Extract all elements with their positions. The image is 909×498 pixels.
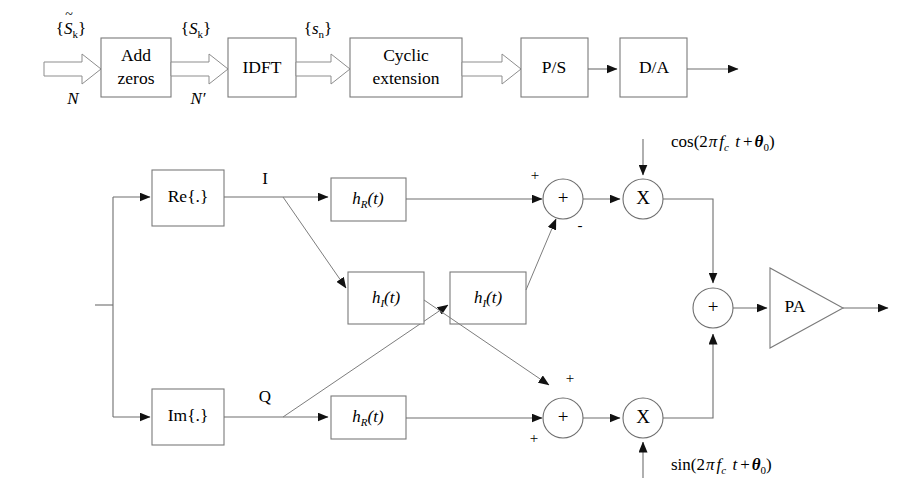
block-im[interactable]: Im{.} <box>152 389 224 445</box>
carrier-sin-label: sin(2πfc t+θ0) <box>671 455 772 476</box>
block-diagram: {Sk} ~ N Add zeros {Sk} N′ IDFT {sn} <box>0 0 909 498</box>
mixer-i[interactable]: X <box>623 179 663 219</box>
adder-lower-glyph: + <box>558 406 569 427</box>
svg-text:N′: N′ <box>189 89 205 108</box>
mixer-i-glyph: X <box>636 187 650 208</box>
signal-label-s-n: {sn} <box>304 19 332 40</box>
wire-mixer-q-to-combine <box>663 334 713 418</box>
label-i: I <box>262 169 268 188</box>
wire-mixer-i-to-combine <box>663 199 713 283</box>
block-cyclic-extension[interactable]: Cyclic extension <box>350 38 462 97</box>
block-add-zeros-line1: Add <box>121 45 151 65</box>
tilde-accent-s: ~ <box>65 7 73 22</box>
block-add-zeros[interactable]: Add zeros <box>101 38 171 97</box>
signal-label-s-tilde-k: {Sk} ~ <box>56 7 86 39</box>
block-cyclic-extension-line2: extension <box>372 68 439 88</box>
svg-text:+: + <box>531 167 539 183</box>
fat-arrow-cyclic-to-ps <box>462 54 521 84</box>
adder-upper-sign-in: + <box>531 167 539 183</box>
wire-lower-input <box>95 197 150 417</box>
adder-upper-glyph: + <box>558 187 569 208</box>
width-label-n-prime: N′ <box>189 89 205 108</box>
svg-text:hR(t): hR(t) <box>352 407 384 428</box>
block-re-label: Re{.} <box>168 186 209 206</box>
adder-lower-sign-cross: + <box>566 370 574 386</box>
width-label-n: N <box>66 89 80 108</box>
block-add-zeros-line2: zeros <box>118 68 155 88</box>
block-da[interactable]: D/A <box>620 38 687 97</box>
signal-label-s-k: {Sk} <box>181 19 211 40</box>
svg-text:hR(t): hR(t) <box>352 189 384 210</box>
block-ps[interactable]: P/S <box>521 38 588 97</box>
block-pa-label: PA <box>785 296 806 316</box>
svg-text:N: N <box>66 89 80 108</box>
figure-canvas: {Sk} ~ N Add zeros {Sk} N′ IDFT {sn} <box>0 0 909 498</box>
block-cyclic-extension-line1: Cyclic <box>383 45 429 65</box>
svg-text:hI(t): hI(t) <box>474 288 503 309</box>
wire-hi-right-to-upper-adder <box>526 219 556 290</box>
svg-text:Q: Q <box>259 387 271 406</box>
block-idft-label: IDFT <box>243 57 282 77</box>
wire-i-branch <box>224 197 346 288</box>
fat-arrow-input <box>44 54 101 84</box>
svg-text:-: - <box>578 217 583 233</box>
block-hi-left[interactable]: hI(t) <box>348 272 424 324</box>
adder-lower-sign-in: + <box>530 430 538 446</box>
block-re[interactable]: Re{.} <box>152 170 224 226</box>
adder-upper-sign-cross: - <box>578 217 583 233</box>
svg-text:I: I <box>262 169 268 188</box>
block-hr-lower[interactable]: hR(t) <box>331 396 406 439</box>
fat-arrow-idft-to-cyclic <box>296 54 350 84</box>
adder-combine-glyph: + <box>708 296 719 317</box>
block-ps-label: P/S <box>542 57 566 77</box>
svg-text:{sn}: {sn} <box>304 19 332 40</box>
block-da-label: D/A <box>639 57 670 77</box>
svg-text:sin(2πfc t+θ0): sin(2πfc t+θ0) <box>671 455 772 476</box>
mixer-q[interactable]: X <box>623 398 663 438</box>
block-hr-upper[interactable]: hR(t) <box>331 178 406 221</box>
svg-text:{Sk}: {Sk} <box>181 19 211 40</box>
svg-text:hI(t): hI(t) <box>372 288 401 309</box>
label-q: Q <box>259 387 271 406</box>
mixer-q-glyph: X <box>636 406 650 427</box>
svg-text:cos(2πfc t+θ0): cos(2πfc t+θ0) <box>671 132 775 153</box>
block-pa[interactable]: PA <box>770 268 843 348</box>
block-im-label: Im{.} <box>168 405 209 425</box>
svg-text:+: + <box>530 430 538 446</box>
block-hi-right[interactable]: hI(t) <box>450 272 526 324</box>
svg-text:+: + <box>566 370 574 386</box>
adder-combine[interactable]: + <box>693 288 733 328</box>
fat-arrow-add-zeros-to-idft <box>171 54 228 84</box>
adder-upper[interactable]: + <box>543 179 583 219</box>
carrier-cos-label: cos(2πfc t+θ0) <box>671 132 775 153</box>
block-idft[interactable]: IDFT <box>228 38 296 97</box>
adder-lower[interactable]: + <box>543 398 583 438</box>
